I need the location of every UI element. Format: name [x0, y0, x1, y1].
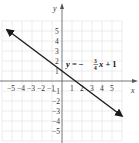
y-tick-label: 3: [55, 47, 59, 56]
svg-text:y = −: y = −: [65, 59, 84, 69]
x-axis-label: x: [130, 86, 135, 95]
x-axis-arrow-icon: [132, 79, 138, 83]
y-axis-arrow-icon: [60, 3, 64, 9]
y-tick-label: −5: [52, 127, 60, 136]
y-axis-label: y: [52, 4, 57, 13]
x-tick-label: 4: [100, 84, 104, 93]
y-tick-label: 5: [55, 27, 59, 36]
x-tick-label: 1: [70, 84, 74, 93]
coordinate-plane: x y −5−4−3−2−11234554321−1−2−3−4−5 y = −…: [0, 0, 139, 143]
plotted-line: [7, 30, 122, 116]
svg-text:3: 3: [94, 58, 97, 64]
x-tick-label: −4: [17, 84, 25, 93]
y-tick-label: −2: [52, 97, 60, 106]
equation-label: y = − 3 4 x + 1: [65, 58, 117, 71]
y-tick-label: 4: [55, 37, 59, 46]
x-tick-label: −3: [27, 84, 35, 93]
y-tick-label: −4: [52, 117, 60, 126]
x-tick-label: −5: [7, 84, 15, 93]
y-tick-label: −1: [52, 87, 60, 96]
svg-text:4: 4: [94, 65, 97, 71]
line-series: [7, 30, 122, 116]
y-tick-label: 2: [55, 57, 59, 66]
svg-text:x + 1: x + 1: [98, 59, 117, 69]
x-tick-label: 5: [110, 84, 114, 93]
x-tick-label: −2: [37, 84, 45, 93]
tick-labels: −5−4−3−2−11234554321−1−2−3−4−5: [7, 27, 114, 136]
y-tick-label: −3: [52, 107, 60, 116]
axes: x y: [0, 3, 138, 143]
